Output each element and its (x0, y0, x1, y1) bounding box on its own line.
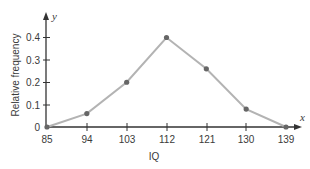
y-tick-label: 0.4 (26, 32, 40, 43)
y-axis-title: Relative frequency (10, 34, 21, 117)
y-axis-variable: y (51, 10, 57, 22)
data-point-marker (244, 107, 249, 112)
x-tick-label: 103 (119, 134, 136, 145)
x-tick-label: 139 (278, 134, 295, 145)
frequency-polygon-chart: y x 0 0.1 0.2 0.3 0.4 85 94 103 112 121 … (0, 0, 310, 169)
data-point-marker (124, 80, 129, 85)
y-axis-arrow-icon (43, 12, 49, 20)
data-point-marker (204, 66, 209, 71)
y-tick-label: 0.3 (26, 55, 40, 66)
x-tick-label: 94 (81, 134, 93, 145)
x-axis-title: IQ (149, 151, 160, 162)
y-tick-label: 0.1 (26, 100, 40, 111)
data-point-marker (283, 124, 288, 129)
data-point-marker (84, 111, 89, 116)
data-series (44, 35, 288, 130)
x-tick-label: 85 (41, 134, 53, 145)
data-point-marker (164, 35, 169, 40)
x-axis-variable: x (299, 111, 305, 123)
x-axis-arrow-icon (294, 124, 302, 130)
x-tick-label: 121 (199, 134, 216, 145)
y-tick-label: 0.2 (26, 77, 40, 88)
x-tick-label: 130 (238, 134, 255, 145)
frequency-line (47, 38, 286, 128)
x-tick-label: 112 (159, 134, 175, 145)
x-ticks: 85 94 103 112 121 130 139 (41, 123, 294, 145)
y-tick-label: 0 (34, 122, 40, 133)
data-point-marker (44, 124, 49, 129)
